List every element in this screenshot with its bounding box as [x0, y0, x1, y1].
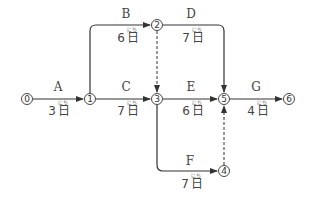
node-6-label: 6: [286, 94, 292, 104]
activity-e-duration-num: 6: [182, 104, 190, 118]
activity-d-duration-num: 7: [182, 31, 190, 45]
node-1: 1: [85, 94, 96, 105]
activity-g-duration-num: 4: [247, 104, 255, 118]
node-2: 2: [152, 20, 163, 31]
activity-e-name: E: [187, 80, 196, 94]
activity-e-duration-unit: 日: [192, 104, 204, 118]
activity-f-name: F: [186, 154, 194, 168]
activity-c-duration-unit: 日: [127, 104, 139, 118]
activity-d-name: D: [186, 7, 196, 21]
activity-f-duration-num: 7: [181, 177, 189, 191]
activity-a-duration-unit: 日: [58, 104, 70, 118]
activity-e: E にち 6 日: [163, 80, 217, 118]
activity-g: G にち 4 日: [230, 80, 282, 118]
activity-a-name: A: [53, 80, 63, 94]
activity-a-duration-num: 3: [48, 104, 56, 118]
node-6: 6: [284, 94, 295, 105]
activity-g-duration-unit: 日: [257, 104, 269, 118]
arrow-diagram: A にち 3 日 B にち 6 日 C にち 7 日 D にち 7 日 E にち…: [0, 0, 314, 201]
node-5-label: 5: [221, 94, 227, 104]
node-0: 0: [22, 94, 33, 105]
node-2-label: 2: [154, 20, 160, 30]
node-1-label: 1: [87, 94, 93, 104]
activity-g-name: G: [251, 80, 261, 94]
activity-c: C にち 7 日: [96, 80, 150, 118]
activity-d-duration-unit: 日: [192, 31, 204, 45]
node-3-label: 3: [154, 94, 160, 104]
node-3: 3: [152, 94, 163, 105]
node-4-label: 4: [221, 166, 227, 176]
activity-b-duration-unit: 日: [127, 31, 139, 45]
activity-b-name: B: [122, 7, 131, 21]
activity-c-name: C: [121, 80, 130, 94]
node-5: 5: [219, 94, 230, 105]
activity-b-duration-num: 6: [117, 31, 125, 45]
activity-c-duration-num: 7: [117, 104, 125, 118]
activity-b: B にち 6 日: [90, 7, 150, 93]
node-0-label: 0: [24, 94, 30, 104]
node-4: 4: [219, 166, 230, 177]
activity-a: A にち 3 日: [33, 80, 83, 118]
activity-f-duration-unit: 日: [191, 177, 203, 191]
